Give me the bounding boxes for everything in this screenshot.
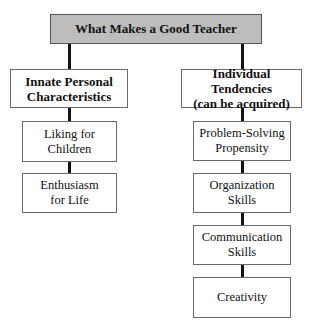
branch-label-line1: Innate Personal	[25, 74, 113, 89]
root-label: What Makes a Good Teacher	[75, 22, 237, 36]
branch-node-innate: Innate Personal Characteristics	[10, 69, 128, 108]
connector-right-2	[241, 161, 244, 173]
branch-label-line2: Characteristics	[25, 89, 113, 104]
branch-label-line1: Individual Tendencies	[182, 66, 301, 96]
leaf-node-liking-for-children: Liking for Children	[22, 121, 117, 162]
leaf-label-line1: Communication	[202, 230, 283, 245]
leaf-label-line2: for Life	[40, 193, 98, 208]
connector-left-2	[68, 162, 71, 173]
leaf-node-communication: Communication Skills	[193, 225, 291, 265]
leaf-label-line2: Children	[44, 142, 95, 157]
leaf-label-line1: Enthusiasm	[40, 178, 98, 193]
leaf-label-line1: Liking for	[44, 127, 95, 142]
connector-root-left	[68, 44, 71, 69]
connector-left-1	[68, 108, 71, 121]
connector-right-3	[241, 213, 244, 225]
branch-node-individual-tendencies: Individual Tendencies (can be acquired)	[181, 69, 302, 108]
connector-right-4	[241, 265, 244, 277]
leaf-label-line2: Skills	[209, 193, 274, 208]
leaf-node-enthusiasm: Enthusiasm for Life	[22, 173, 117, 213]
root-node: What Makes a Good Teacher	[50, 14, 262, 44]
leaf-label-line1: Organization	[209, 178, 274, 193]
leaf-node-organization: Organization Skills	[193, 173, 291, 213]
leaf-label-line1: Creativity	[217, 290, 267, 305]
leaf-node-problem-solving: Problem-Solving Propensity	[193, 121, 291, 161]
leaf-label-line2: Skills	[202, 245, 283, 260]
leaf-label-line1: Problem-Solving	[199, 126, 284, 141]
branch-label-line2: (can be acquired)	[182, 96, 301, 111]
leaf-label-line2: Propensity	[199, 141, 284, 156]
leaf-node-creativity: Creativity	[193, 277, 291, 318]
